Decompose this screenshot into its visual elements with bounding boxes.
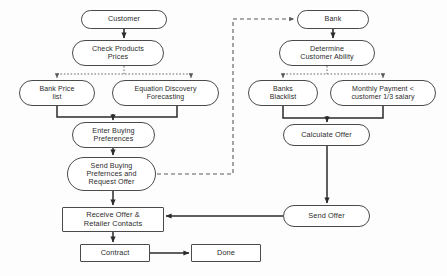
flowchart-canvas: Customer Check Products Prices Bank Pric… [0, 0, 447, 276]
edge-bank-price-list-to-enter [57, 106, 113, 117]
node-check-products-prices[interactable]: Check Products Prices [72, 40, 164, 66]
node-send-offer[interactable]: Send Offer [283, 205, 370, 227]
node-monthly-payment-condition[interactable]: Monthly Payment < customer 1/3 salary [330, 80, 436, 106]
node-equation-discovery-forecasting[interactable]: Equation Discovery Forecasting [112, 80, 219, 106]
node-banks-blacklist[interactable]: Banks Blacklist [248, 80, 318, 106]
node-bank-price-list[interactable]: Bank Price list [19, 80, 95, 106]
node-enter-buying-preferences[interactable]: Enter Buying Preferences [72, 122, 155, 148]
node-done[interactable]: Done [191, 244, 261, 262]
edge-monthly-to-calculate [327, 106, 383, 118]
edge-equation-to-enter [113, 106, 177, 117]
node-customer[interactable]: Customer [81, 10, 167, 29]
node-contract[interactable]: Contract [80, 244, 150, 262]
node-calculate-offer[interactable]: Calculate Offer [283, 124, 370, 146]
node-receive-offer-retailer-contacts[interactable]: Receive Offer & Retailer Contacts [62, 207, 164, 232]
edge-blacklist-to-calculate [283, 106, 327, 118]
node-bank[interactable]: Bank [297, 10, 369, 29]
flowchart-edges [0, 0, 447, 276]
node-send-buying-preferences-request-offer[interactable]: Send Buying Prefernces and Request Offer [67, 157, 156, 191]
node-determine-customer-ability[interactable]: Determine Customer Ability [279, 40, 375, 66]
